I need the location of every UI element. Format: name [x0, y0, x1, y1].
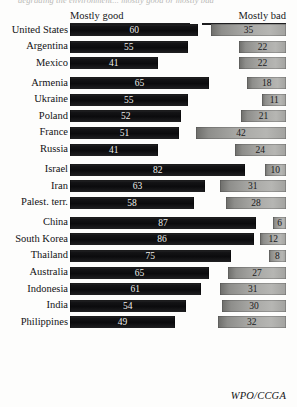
bar-value-good: 41: [70, 144, 158, 156]
bar-mostly-bad: 31: [220, 180, 286, 192]
country-label: Palest. terr.: [21, 196, 68, 208]
bar-value-bad: 6: [273, 217, 286, 229]
bar-mostly-bad: 6: [273, 217, 286, 229]
bar-mostly-bad: 11: [262, 94, 286, 106]
bar-value-bad: 31: [220, 283, 286, 295]
bar-group: United States6035Argentina5522Mexico4122: [0, 24, 297, 69]
country-label: Iran: [51, 180, 68, 192]
bar-value-good: 55: [70, 41, 188, 53]
country-label: Philippines: [21, 316, 68, 328]
bar-mostly-bad: 22: [239, 41, 286, 53]
bar-value-bad: 18: [247, 77, 286, 89]
bar-row: Indonesia6131: [0, 283, 297, 295]
bar-row: China876: [0, 217, 297, 229]
bar-value-good: 82: [70, 164, 245, 176]
bar-value-bad: 8: [269, 250, 286, 262]
bar-mostly-bad: 42: [196, 127, 286, 139]
bar-value-bad: 22: [239, 41, 286, 53]
bar-value-bad: 35: [211, 24, 286, 36]
country-label: Argentina: [26, 40, 68, 52]
bar-value-good: 51: [70, 127, 179, 139]
bar-value-bad: 24: [235, 144, 286, 156]
bar-chart-plot: United States6035Argentina5522Mexico4122…: [0, 24, 297, 328]
bar-row: Philippines4932: [0, 316, 297, 328]
country-label: Indonesia: [27, 283, 68, 295]
bar-row: Poland5221: [0, 110, 297, 122]
bar-mostly-good: 87: [70, 217, 256, 229]
bar-value-bad: 12: [260, 233, 286, 245]
bar-mostly-good: 82: [70, 164, 245, 176]
chart-page: degrading the environment... mostly good…: [0, 0, 297, 407]
bar-mostly-good: 75: [70, 250, 231, 262]
bar-mostly-bad: 21: [241, 110, 286, 122]
bar-mostly-good: 49: [70, 316, 175, 328]
bar-group: Israel8210Iran6331Palest. terr.5828: [0, 164, 297, 209]
clipped-caption: degrading the environment... mostly good…: [0, 0, 297, 9]
bar-mostly-bad: 31: [220, 283, 286, 295]
bar-row: Israel8210: [0, 164, 297, 176]
bar-row: Australia6527: [0, 267, 297, 279]
header-mostly-bad: Mostly bad: [238, 10, 286, 21]
country-label: China: [43, 216, 68, 228]
bar-value-bad: 22: [239, 57, 286, 69]
header-mostly-good: Mostly good: [70, 10, 123, 21]
bar-mostly-bad: 35: [211, 24, 286, 36]
bar-value-good: 49: [70, 316, 175, 328]
bar-value-bad: 28: [226, 197, 286, 209]
country-label: Thailand: [31, 249, 68, 261]
bar-value-good: 75: [70, 250, 231, 262]
bar-mostly-good: 65: [70, 77, 209, 89]
bar-value-bad: 31: [220, 180, 286, 192]
bar-value-good: 65: [70, 77, 209, 89]
bar-value-good: 65: [70, 267, 209, 279]
bar-mostly-bad: 27: [228, 267, 286, 279]
bar-mostly-bad: 28: [226, 197, 286, 209]
bar-mostly-bad: 18: [247, 77, 286, 89]
bar-mostly-bad: 12: [260, 233, 286, 245]
bar-value-good: 60: [70, 24, 198, 36]
bar-row: Palest. terr.5828: [0, 197, 297, 209]
bar-mostly-good: 51: [70, 127, 179, 139]
country-label: Israel: [45, 163, 68, 175]
bar-value-good: 86: [70, 233, 254, 245]
bar-mostly-good: 52: [70, 110, 181, 122]
column-headers: Mostly good Mostly bad: [0, 10, 297, 24]
bar-mostly-bad: 32: [218, 316, 286, 328]
bar-mostly-good: 86: [70, 233, 254, 245]
bar-mostly-bad: 24: [235, 144, 286, 156]
bar-mostly-good: 41: [70, 144, 158, 156]
bar-value-bad: 30: [222, 300, 286, 312]
bar-row: Iran6331: [0, 180, 297, 192]
bar-mostly-good: 41: [70, 57, 158, 69]
bar-group: Armenia6518Ukraine5511Poland5221France51…: [0, 77, 297, 155]
bar-value-good: 54: [70, 300, 186, 312]
country-label: India: [46, 299, 68, 311]
bar-mostly-bad: 22: [239, 57, 286, 69]
bar-value-bad: 42: [196, 127, 286, 139]
bar-value-good: 63: [70, 180, 205, 192]
country-label: Mexico: [36, 57, 68, 69]
country-label: Ukraine: [34, 93, 68, 105]
bar-mostly-bad: 30: [222, 300, 286, 312]
bar-mostly-good: 63: [70, 180, 205, 192]
bar-row: India5430: [0, 300, 297, 312]
clipped-caption-text: degrading the environment... mostly good…: [18, 0, 214, 5]
bar-value-bad: 11: [262, 94, 286, 106]
bar-value-good: 55: [70, 94, 188, 106]
bar-value-bad: 32: [218, 316, 286, 328]
bar-row: Mexico4122: [0, 57, 297, 69]
bar-row: Ukraine5511: [0, 94, 297, 106]
bar-row: Thailand758: [0, 250, 297, 262]
bar-row: France5142: [0, 127, 297, 139]
bar-row: Armenia6518: [0, 77, 297, 89]
bar-value-bad: 10: [265, 164, 286, 176]
bar-value-good: 61: [70, 283, 201, 295]
bar-value-good: 41: [70, 57, 158, 69]
bar-mostly-good: 61: [70, 283, 201, 295]
bar-mostly-bad: 8: [269, 250, 286, 262]
country-label: Poland: [39, 110, 68, 122]
country-label: Armenia: [31, 77, 68, 89]
country-label: Australia: [30, 266, 69, 278]
country-label: Russia: [40, 143, 68, 155]
source-credit: WPO/CCGA: [231, 390, 286, 401]
